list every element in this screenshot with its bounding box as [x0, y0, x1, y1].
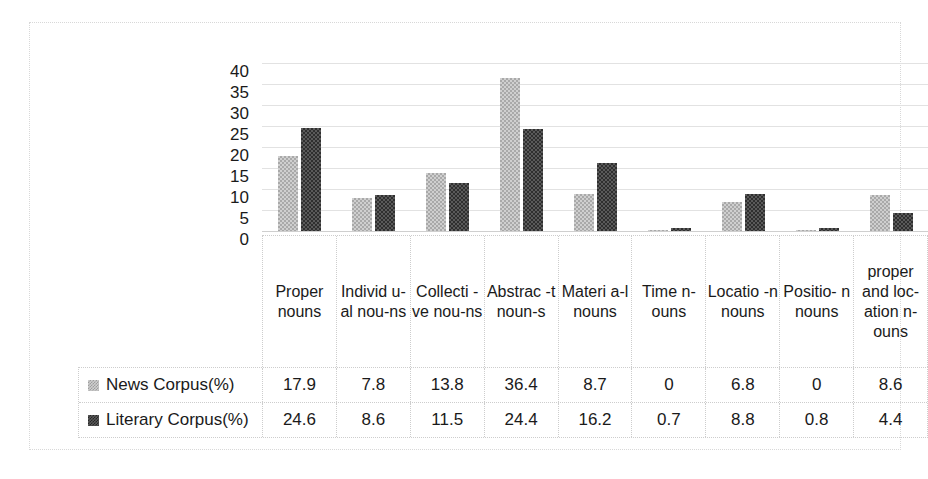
y-tick-label: 30	[230, 105, 249, 122]
y-axis: 4035302520151050	[180, 51, 255, 243]
bar-group	[484, 63, 558, 231]
table-cell-value: 24.6	[263, 403, 337, 437]
table-cell-value: 8.8	[706, 403, 780, 437]
bar-literary-corpus	[523, 129, 543, 231]
figure-frame: 4035302520151050 Proper nounsIndivid u-a…	[29, 22, 901, 450]
data-table: News Corpus(%)17.97.813.836.48.706.808.6…	[78, 367, 928, 438]
category-label: Positio- n nouns	[780, 236, 854, 367]
table-cell-value: 8.6	[854, 368, 927, 402]
table-cell-value: 24.4	[485, 403, 559, 437]
table-cell-value: 17.9	[263, 368, 337, 402]
bar-news-corpus	[574, 194, 594, 231]
table-cell-value: 0	[780, 368, 854, 402]
bar-group	[706, 63, 780, 231]
table-row: Literary Corpus(%)24.68.611.524.416.20.7…	[79, 403, 927, 437]
bar-literary-corpus	[301, 128, 321, 231]
bar-news-corpus	[426, 173, 446, 231]
legend-swatch-icon	[88, 380, 99, 391]
category-label-row: Proper nounsIndivid u-al nou-nsCollecti …	[262, 235, 928, 367]
bar-news-corpus	[500, 78, 520, 231]
table-cell-value: 8.6	[337, 403, 411, 437]
table-cell-value: 4.4	[854, 403, 927, 437]
category-label: Locatio -n nouns	[706, 236, 780, 367]
category-label: Materi a-l nouns	[559, 236, 633, 367]
table-cell-value: 36.4	[485, 368, 559, 402]
bar-news-corpus	[278, 156, 298, 231]
bar-news-corpus	[870, 195, 890, 231]
bar-group	[410, 63, 484, 231]
bar-literary-corpus	[375, 195, 395, 231]
table-row: News Corpus(%)17.97.813.836.48.706.808.6	[79, 368, 927, 403]
table-cell-value: 8.7	[559, 368, 633, 402]
table-cell-value: 11.5	[411, 403, 485, 437]
category-label: Collecti -ve nou-ns	[411, 236, 485, 367]
category-label: Proper nouns	[263, 236, 337, 367]
category-label: Time n- ouns	[632, 236, 706, 367]
table-cell-value: 0.8	[780, 403, 854, 437]
table-cell-value: 6.8	[706, 368, 780, 402]
bar-group	[854, 63, 928, 231]
y-tick-label: 40	[230, 63, 249, 80]
table-cell-value: 16.2	[559, 403, 633, 437]
y-tick-label: 15	[230, 168, 249, 185]
table-cell-value: 13.8	[411, 368, 485, 402]
legend-entry: News Corpus(%)	[79, 368, 263, 402]
legend-entry: Literary Corpus(%)	[79, 403, 263, 437]
bar-literary-corpus	[597, 163, 617, 231]
plot-area	[262, 63, 928, 231]
y-tick-label: 0	[240, 231, 249, 248]
bar-group	[336, 63, 410, 231]
y-tick-label: 25	[230, 126, 249, 143]
category-label: Abstrac -t noun-s	[485, 236, 559, 367]
legend-swatch-icon	[88, 415, 99, 426]
y-tick-label: 35	[230, 84, 249, 101]
legend-label: Literary Corpus(%)	[106, 410, 249, 430]
y-tick-label: 5	[240, 210, 249, 227]
y-tick-label: 10	[230, 189, 249, 206]
bar-news-corpus	[722, 202, 742, 231]
bar-literary-corpus	[893, 213, 913, 231]
x-axis-baseline	[262, 231, 928, 232]
bar-news-corpus	[352, 198, 372, 231]
bar-literary-corpus	[745, 194, 765, 231]
bar-group	[780, 63, 854, 231]
bar-group	[558, 63, 632, 231]
bar-group	[262, 63, 336, 231]
category-label: proper and loc- ation n- ouns	[854, 236, 928, 367]
table-cell-value: 0	[632, 368, 706, 402]
legend-label: News Corpus(%)	[106, 375, 234, 395]
table-cell-value: 7.8	[337, 368, 411, 402]
category-label: Individ u-al nou-ns	[337, 236, 411, 367]
table-cell-value: 0.7	[632, 403, 706, 437]
bar-group	[632, 63, 706, 231]
y-tick-label: 20	[230, 147, 249, 164]
bar-literary-corpus	[449, 183, 469, 231]
